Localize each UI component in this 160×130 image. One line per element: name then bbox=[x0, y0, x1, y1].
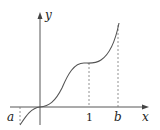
y-axis-label: y bbox=[44, 8, 52, 22]
tick-label-a: a bbox=[7, 110, 14, 124]
x-axis-label: x bbox=[142, 110, 149, 124]
function-graph: y x a 1 b bbox=[0, 0, 160, 130]
tick-label-b: b bbox=[114, 110, 122, 124]
function-curve bbox=[20, 23, 119, 125]
x-axis-arrow-icon bbox=[142, 105, 149, 110]
tick-label-1: 1 bbox=[86, 111, 93, 124]
y-axis-arrow-icon bbox=[38, 12, 43, 19]
